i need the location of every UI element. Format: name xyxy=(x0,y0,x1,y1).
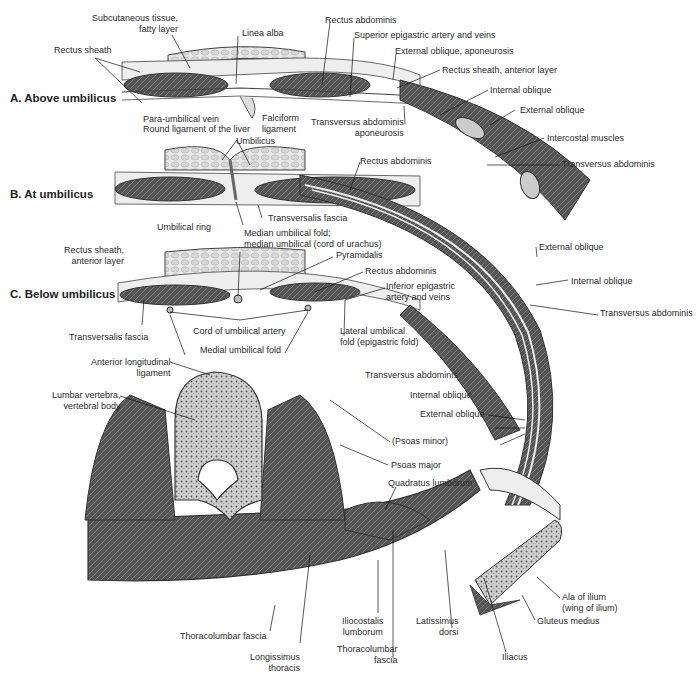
label-transversalis-fascia-c: Transversalis fascia xyxy=(69,332,148,343)
label-line: ligament xyxy=(262,124,299,135)
label-line: median umbilical (cord of urachus) xyxy=(244,239,382,250)
label-thoracolumbar-fascia-right: Thoracolumbar fascia xyxy=(337,644,398,666)
label-rectus-sheath: Rectus sheath xyxy=(54,45,112,56)
iliac-region xyxy=(470,468,562,615)
label-line: Iliocostalis xyxy=(342,616,384,627)
label-ala-of-ilium: Ala of ilium (wing of ilium) xyxy=(562,592,618,614)
anatomy-figure: A. Above umbilicus B. At umbilicus C. Be… xyxy=(0,0,699,678)
label-line: Ala of ilium xyxy=(562,592,618,603)
label-transversalis-fascia-b: Transversalis fascia xyxy=(268,213,347,224)
label-anterior-longitudinal-ligament: Anterior longitudinal ligament xyxy=(91,357,171,379)
label-thoracolumbar-fascia-left: Thoracolumbar fascia xyxy=(180,631,267,642)
label-inferior-epigastric: Inferior epigastric artery and veins xyxy=(386,281,455,303)
label-line: Transversus abdominis xyxy=(311,117,404,128)
label-iliocostalis-lumborum: Iliocostalis lumborum xyxy=(342,616,384,638)
label-transversus-abdominis-c: Transversus abdominis xyxy=(600,308,693,319)
label-line: fatty layer xyxy=(92,24,178,35)
label-lateral-umbilical-fold: Lateral umbilical fold (epigastric fold) xyxy=(340,326,419,348)
label-internal-oblique-c: Internal oblique xyxy=(571,276,633,287)
section-title-below-umbilicus: C. Below umbilicus xyxy=(10,288,115,300)
label-line: artery and veins xyxy=(386,292,455,303)
label-line: Lateral umbilical xyxy=(340,326,419,337)
label-line: Lumbar vertebra, xyxy=(52,390,121,401)
label-line: lumborum xyxy=(342,627,384,638)
label-external-oblique-c: External oblique xyxy=(539,242,604,253)
label-rectus-abdominis-a: Rectus abdominis xyxy=(325,15,397,26)
label-subcutaneous-tissue: Subcutaneous tissue, fatty layer xyxy=(92,13,178,35)
section-title-above-umbilicus: A. Above umbilicus xyxy=(10,92,116,104)
label-longissimus-thoracis: Longissimus thoracis xyxy=(250,652,300,674)
label-rectus-sheath-anterior: Rectus sheath, anterior layer xyxy=(442,65,557,76)
label-medial-umbilical-fold: Medial umbilical fold xyxy=(200,345,281,356)
posterior-body-wall xyxy=(85,372,480,581)
label-rectus-abdominis-b: Rectus abdominis xyxy=(360,156,432,167)
label-latissimus-dorsi: Latissimus dorsi xyxy=(416,616,459,638)
section-a-wall xyxy=(122,47,420,118)
label-line: ligament xyxy=(91,368,171,379)
label-lumbar-vertebra: Lumbar vertebra, vertebral body xyxy=(52,390,121,412)
label-umbilical-ring: Umbilical ring xyxy=(157,222,211,233)
label-cord-umbilical-artery: Cord of umbilical artery xyxy=(193,326,286,337)
label-internal-oblique-a: Internal oblique xyxy=(490,85,552,96)
label-pyramidalis: Pyramidalis xyxy=(336,250,383,261)
label-iliacus: Iliacus xyxy=(502,652,528,663)
label-line: Longissimus xyxy=(250,652,300,663)
label-transversus-abdominis-a: Transversus abdominis xyxy=(562,159,655,170)
label-transversus-abdominis-d: Transversus abdominis xyxy=(365,370,458,381)
label-line: anterior layer xyxy=(64,256,124,267)
label-external-oblique-d: External oblique xyxy=(420,409,485,420)
label-line: Inferior epigastric xyxy=(386,281,455,292)
label-psoas-minor: (Psoas minor) xyxy=(392,436,448,447)
label-line: aponeurosis xyxy=(311,128,404,139)
label-line: fold (epigastric fold) xyxy=(340,337,419,348)
label-intercostal-muscles: Intercostal muscles xyxy=(547,133,624,144)
label-line: Latissimus xyxy=(416,616,459,627)
section-title-at-umbilicus: B. At umbilicus xyxy=(10,188,93,200)
label-line: (wing of ilium) xyxy=(562,603,618,614)
label-psoas-major: Psoas major xyxy=(391,460,441,471)
label-external-oblique-aponeurosis: External oblique, aponeurosis xyxy=(395,46,514,57)
label-line: Rectus sheath, xyxy=(64,245,124,256)
label-line: Thoracolumbar xyxy=(337,644,398,655)
label-line: Anterior longitudinal xyxy=(91,357,171,368)
label-rectus-sheath-anterior-c: Rectus sheath, anterior layer xyxy=(64,245,124,267)
label-line: Subcutaneous tissue, xyxy=(92,13,178,24)
label-umbilicus: Umbilicus xyxy=(236,136,275,147)
label-line: dorsi xyxy=(416,627,459,638)
label-line: Median umbilical fold; xyxy=(244,228,382,239)
label-quadratus-lumborum: Quadratus lumborum xyxy=(388,478,473,489)
label-line: fascia xyxy=(337,655,398,666)
label-falciform-ligament: Falciform ligament xyxy=(262,113,299,135)
label-line: Falciform xyxy=(262,113,299,124)
label-line: vertebral body xyxy=(52,401,121,412)
label-superior-epigastric: Superior epigastric artery and veins xyxy=(354,30,496,41)
label-transversus-aponeurosis: Transversus abdominis aponeurosis xyxy=(311,117,404,139)
label-line: thoracis xyxy=(250,663,300,674)
label-external-oblique-a: External oblique xyxy=(520,105,585,116)
label-round-ligament-liver: Round ligament of the liver xyxy=(143,124,250,135)
label-linea-alba: Linea alba xyxy=(242,28,284,39)
label-gluteus-medius: Gluteus medius xyxy=(537,616,600,627)
label-internal-oblique-d: Internal oblique xyxy=(410,390,472,401)
label-median-umbilical-fold: Median umbilical fold; median umbilical … xyxy=(244,228,382,250)
label-rectus-abdominis-c: Rectus abdominis xyxy=(365,266,437,277)
